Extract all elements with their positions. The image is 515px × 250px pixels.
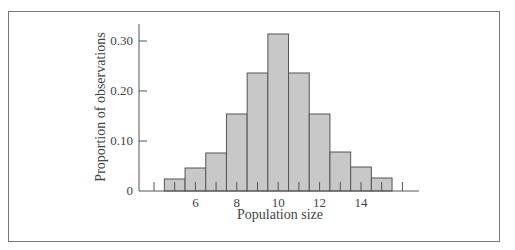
- bar-11: [289, 73, 310, 191]
- bar-9: [247, 73, 268, 191]
- y-tick-label: 0.10: [110, 133, 133, 148]
- x-tick-label: 6: [192, 195, 199, 210]
- x-axis-title: Population size: [237, 207, 323, 222]
- y-tick-label: 0: [127, 183, 134, 198]
- y-tick-label: 0.30: [110, 33, 133, 48]
- y-axis-ticks: 00.100.200.30: [110, 33, 147, 198]
- histogram-chart: 00.100.200.30 68101214 Population size P…: [0, 0, 515, 250]
- bar-12: [309, 114, 330, 191]
- bar-8: [226, 114, 247, 191]
- y-axis-title: Proportion of observations: [93, 32, 108, 181]
- x-tick-label: 14: [355, 195, 369, 210]
- bar-10: [268, 34, 289, 191]
- bars: [164, 34, 392, 191]
- y-tick-label: 0.20: [110, 83, 133, 98]
